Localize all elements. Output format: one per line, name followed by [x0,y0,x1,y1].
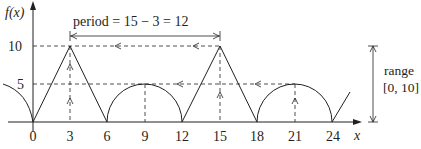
range-label-line2: [0, 10] [383,80,419,95]
y-tick-5: 5 [17,77,24,92]
periodic-function-diagram: period = 15 − 3 = 12 range [0, 10] f(x) … [0,0,421,149]
x-tick-0: 0 [30,129,37,144]
diagram-canvas: period = 15 − 3 = 12 range [0, 10] f(x) … [0,0,421,149]
x-tick-3: 3 [67,129,74,144]
range-annotation: range [0, 10] [368,46,419,122]
x-tick-labels: 0 3 6 9 12 15 18 21 24 [30,129,341,144]
period-annotation: period = 15 − 3 = 12 [70,14,220,41]
curve-right-rise [332,92,350,122]
range-label-line1: range [384,63,414,78]
curve-semicircle-2 [257,84,332,122]
x-axis-label: x [353,128,361,143]
x-tick-21: 21 [288,129,302,144]
x-tick-9: 9 [142,129,149,144]
x-tick-15: 15 [213,129,227,144]
x-tick-12: 12 [175,129,189,144]
period-label: period = 15 − 3 = 12 [73,14,188,29]
x-axis-arrow-icon [353,119,362,125]
x-tick-6: 6 [104,129,111,144]
y-tick-10: 10 [8,39,22,54]
y-axis-arrow-icon [30,1,36,10]
y-axis-label: f(x) [5,5,25,21]
curve-semicircle-1 [107,84,182,122]
x-tick-18: 18 [250,129,264,144]
x-tick-24: 24 [326,129,340,144]
